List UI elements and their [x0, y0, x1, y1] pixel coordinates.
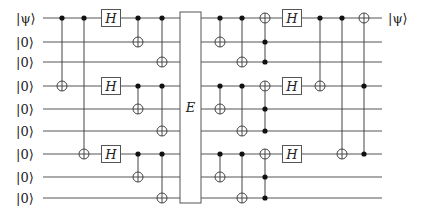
control-dot-icon: [339, 15, 344, 20]
gates: HHHEHHH: [57, 10, 369, 204]
control-dot-icon: [262, 128, 267, 133]
cnot-target-icon: [133, 104, 143, 114]
control-dot-icon: [159, 15, 164, 20]
cnot-target-icon: [237, 193, 247, 203]
hadamard-gate: H: [102, 146, 121, 163]
cnot-target-icon: [237, 57, 247, 67]
cnot-target-icon: [157, 193, 167, 203]
control-dot-icon: [262, 59, 267, 64]
cnot-target-icon: [237, 126, 247, 136]
cnot-target-icon: [133, 172, 143, 182]
cnot-target-icon: [359, 13, 369, 23]
qubit-input-label: |0⟩: [16, 170, 34, 185]
qubit-input-label: |0⟩: [16, 124, 34, 139]
control-dot-icon: [159, 151, 164, 156]
control-dot-icon: [135, 15, 140, 20]
cnot-target-icon: [157, 126, 167, 136]
svg-text:E: E: [185, 100, 196, 115]
control-dot-icon: [317, 15, 322, 20]
control-dot-icon: [81, 15, 86, 20]
cnot-target-icon: [133, 37, 143, 47]
qubit-input-label: |0⟩: [16, 147, 34, 162]
svg-text:H: H: [285, 79, 298, 94]
cnot-target-icon: [215, 172, 225, 182]
hadamard-gate: H: [102, 78, 121, 95]
control-dot-icon: [217, 151, 222, 156]
control-dot-icon: [159, 83, 164, 88]
control-dot-icon: [239, 151, 244, 156]
cnot-target-icon: [337, 149, 347, 159]
svg-text:H: H: [104, 11, 117, 26]
cnot-target-icon: [260, 13, 270, 23]
qubit-input-label: |ψ⟩: [16, 11, 36, 26]
qubit-input-label: |0⟩: [16, 35, 34, 50]
control-dot-icon: [361, 83, 366, 88]
svg-text:H: H: [285, 11, 298, 26]
control-dot-icon: [262, 195, 267, 200]
svg-text:H: H: [285, 147, 298, 162]
cnot-target-icon: [57, 81, 67, 91]
control-dot-icon: [135, 83, 140, 88]
control-dot-icon: [135, 151, 140, 156]
qubit-input-label: |0⟩: [16, 55, 34, 70]
hadamard-gate: H: [283, 146, 302, 163]
svg-text:H: H: [104, 147, 117, 162]
control-dot-icon: [262, 174, 267, 179]
hadamard-gate: H: [283, 10, 302, 27]
qubit-output-label: |ψ⟩: [388, 11, 408, 26]
hadamard-gate: H: [102, 10, 121, 27]
cnot-target-icon: [215, 104, 225, 114]
control-dot-icon: [239, 15, 244, 20]
qubit-input-label: |0⟩: [16, 102, 34, 117]
quantum-circuit: |ψ⟩|ψ⟩|0⟩|0⟩|0⟩|0⟩|0⟩|0⟩|0⟩|0⟩ HHHEHHH: [0, 0, 425, 216]
svg-text:H: H: [104, 79, 117, 94]
cnot-target-icon: [315, 81, 325, 91]
control-dot-icon: [262, 106, 267, 111]
qubit-labels: |ψ⟩|ψ⟩|0⟩|0⟩|0⟩|0⟩|0⟩|0⟩|0⟩|0⟩: [16, 11, 408, 206]
qubit-input-label: |0⟩: [16, 191, 34, 206]
control-dot-icon: [217, 15, 222, 20]
cnot-target-icon: [215, 37, 225, 47]
control-dot-icon: [239, 83, 244, 88]
cnot-target-icon: [79, 149, 89, 159]
error-channel-block: E: [180, 12, 201, 203]
qubit-input-label: |0⟩: [16, 79, 34, 94]
cnot-target-icon: [260, 149, 270, 159]
wires: [43, 18, 382, 198]
control-dot-icon: [262, 39, 267, 44]
control-dot-icon: [217, 83, 222, 88]
control-dot-icon: [59, 15, 64, 20]
cnot-target-icon: [260, 81, 270, 91]
control-dot-icon: [361, 151, 366, 156]
cnot-target-icon: [157, 57, 167, 67]
hadamard-gate: H: [283, 78, 302, 95]
